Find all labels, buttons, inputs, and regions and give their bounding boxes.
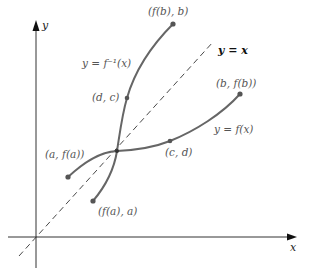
point-a-fa [65, 174, 70, 179]
label-d-c: (d, c) [92, 91, 119, 103]
inverse-function-diagram: y x y = x y = f⁻¹(x) y = f(x) (f(b), b) … [0, 0, 309, 273]
label-b-fb: (b, f(b)) [216, 77, 256, 89]
label-fa-a: (f(a), a) [98, 205, 137, 217]
label-c-d: (c, d) [165, 146, 192, 158]
point-d-c [125, 96, 130, 101]
x-axis-arrow-icon [287, 234, 297, 241]
y-axis-arrow-icon [33, 20, 40, 31]
label-a-fa: (a, f(a)) [45, 148, 84, 160]
f-inverse-curve [93, 24, 173, 201]
label-fb-b: (f(b), b) [148, 5, 188, 17]
y-axis [33, 20, 40, 268]
f-inverse-curve-label: y = f⁻¹(x) [81, 57, 131, 69]
point-intersection [115, 149, 119, 153]
y-axis-label: y [41, 19, 49, 32]
point-fb-b [170, 21, 175, 26]
identity-line-label: y = x [217, 44, 248, 57]
point-c-d [168, 139, 173, 144]
point-fa-a [90, 198, 95, 203]
x-axis [8, 234, 297, 241]
point-b-fb [237, 91, 242, 96]
x-axis-label: x [290, 241, 297, 254]
f-curve-label: y = f(x) [213, 123, 253, 135]
